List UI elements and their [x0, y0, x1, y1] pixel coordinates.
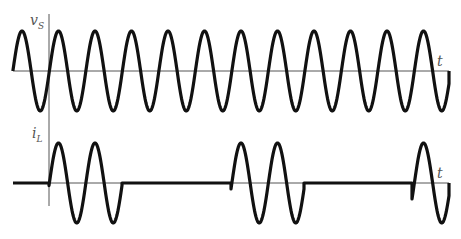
vs-label-subscript: S: [38, 21, 44, 31]
vs-label-main: v: [30, 12, 38, 28]
top-plot-vs: vS t: [13, 12, 449, 111]
vs-label: vS: [30, 12, 44, 31]
waveform-diagram: vS t iL t: [0, 0, 461, 239]
top-t-label: t: [437, 53, 443, 69]
bottom-t-label: t: [437, 165, 443, 181]
il-label-subscript: L: [35, 134, 42, 144]
bottom-plot-il: iL t: [13, 125, 449, 223]
il-label: iL: [32, 125, 42, 144]
